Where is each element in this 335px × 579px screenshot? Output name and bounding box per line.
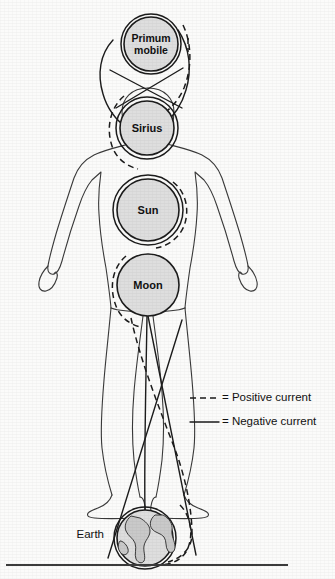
earth-globe[interactable]: Earth xyxy=(77,507,177,569)
legend: = Positive current = Negative current xyxy=(190,391,317,427)
sirius-label: Sirius xyxy=(132,122,163,134)
primum-mobile-label-line2: mobile xyxy=(134,44,168,56)
diagram-canvas: Primum mobile Sirius Sun Moon xyxy=(0,0,335,579)
diagram-svg: Primum mobile Sirius Sun Moon xyxy=(0,0,335,579)
sphere-sirius[interactable]: Sirius xyxy=(116,97,178,159)
primum-mobile-label-line1: Primum xyxy=(131,32,170,44)
earth-label: Earth xyxy=(77,528,105,540)
moon-label: Moon xyxy=(133,279,163,291)
sphere-primum-mobile[interactable]: Primum mobile xyxy=(121,14,181,74)
sphere-moon[interactable]: Moon xyxy=(117,254,179,316)
legend-positive-current-label: = Positive current xyxy=(222,391,312,403)
legend-negative-current-label: = Negative current xyxy=(222,415,317,427)
sphere-sun[interactable]: Sun xyxy=(113,175,183,245)
legend-item-negative-current[interactable]: = Negative current xyxy=(190,415,317,427)
sun-label: Sun xyxy=(138,204,159,216)
legend-item-positive-current[interactable]: = Positive current xyxy=(190,391,312,403)
